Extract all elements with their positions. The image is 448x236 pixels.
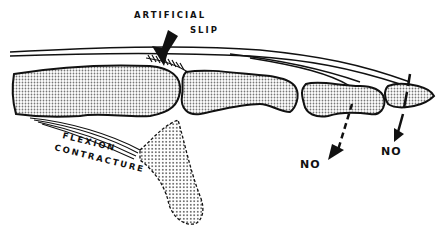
distal-middle-bone <box>302 83 384 117</box>
label-slip: SLIP <box>190 25 219 35</box>
finger-diagram: ARTIFICIAL SLIP FLEXION CONTRACTURE NO N… <box>0 0 448 236</box>
arrow-head-icon <box>328 144 344 160</box>
label-no-left: NO <box>300 158 321 171</box>
label-artificial: ARTIFICIAL <box>134 10 206 20</box>
label-no-right: NO <box>381 145 402 158</box>
middle-phalanx-bone <box>182 71 298 115</box>
proximal-phalanx-bone <box>13 65 181 116</box>
artificial-slip-arrow-icon <box>152 30 178 66</box>
flexion-contracture-region <box>140 120 203 224</box>
distal-phalanx-bone <box>385 84 434 108</box>
